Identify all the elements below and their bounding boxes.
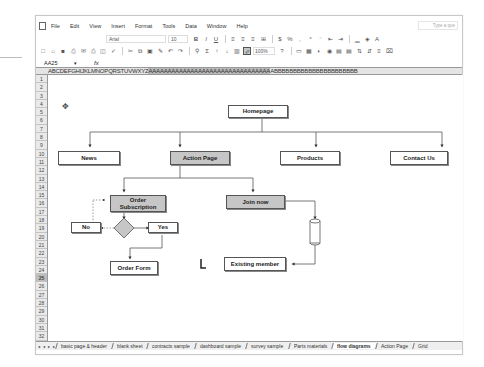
- font-size-select[interactable]: 10: [168, 35, 188, 43]
- row-header[interactable]: 19: [36, 224, 47, 232]
- node-action-page[interactable]: Action Page: [170, 151, 230, 165]
- bold-icon[interactable]: B: [192, 35, 200, 43]
- currency-icon[interactable]: $: [276, 35, 284, 43]
- cut-icon[interactable]: ✂: [126, 47, 134, 55]
- font-color-icon[interactable]: A: [373, 35, 381, 43]
- comma-style-icon[interactable]: ,: [296, 35, 304, 43]
- row-header[interactable]: 18: [36, 216, 47, 224]
- align-right-icon[interactable]: ≡: [249, 35, 257, 43]
- menu-help[interactable]: Help: [236, 23, 247, 29]
- sort-ascending-icon[interactable]: ↑: [213, 47, 221, 55]
- borders-icon[interactable]: ▁: [353, 35, 361, 43]
- decision-diamond[interactable]: [114, 218, 134, 238]
- redo-icon[interactable]: ↷: [176, 47, 184, 55]
- column-headers-ab[interactable]: ABBBBBBBBBBBBBBBBBBBBBB: [270, 68, 357, 74]
- worksheet-grid[interactable]: ✥ Homepage News Action Page Products Con…: [48, 75, 463, 341]
- tab-parts-materials[interactable]: Parts materials: [288, 343, 332, 349]
- menu-edit[interactable]: Edit: [70, 23, 79, 29]
- menu-tools[interactable]: Tools: [162, 23, 175, 29]
- node-existing-member[interactable]: Existing member: [224, 257, 286, 271]
- new-icon[interactable]: □: [39, 47, 47, 55]
- database-cylinder[interactable]: [310, 219, 320, 245]
- ask-question-input[interactable]: Type a que: [418, 21, 458, 30]
- row-header[interactable]: 20: [36, 233, 47, 241]
- row-header[interactable]: 31: [36, 324, 47, 332]
- row-header[interactable]: 11: [36, 158, 47, 166]
- insert-function-icon[interactable]: fx: [94, 60, 99, 66]
- row-header[interactable]: 22: [36, 249, 47, 257]
- row-header[interactable]: 15: [36, 191, 47, 199]
- italic-icon[interactable]: I: [202, 35, 210, 43]
- node-homepage[interactable]: Homepage: [228, 105, 288, 118]
- align-left-icon[interactable]: ≡: [229, 35, 237, 43]
- copy-icon[interactable]: ⧉: [136, 47, 144, 55]
- node-order-form[interactable]: Order Form: [110, 261, 158, 275]
- row-header[interactable]: 3: [36, 92, 47, 100]
- forms-icon[interactable]: ▤: [335, 47, 343, 55]
- menu-insert[interactable]: Insert: [111, 23, 125, 29]
- row-header[interactable]: 7: [36, 125, 47, 133]
- chart-wizard-icon[interactable]: ▥: [233, 47, 241, 55]
- sort-az-icon[interactable]: ⇅: [355, 47, 363, 55]
- row-header[interactable]: 28: [36, 299, 47, 307]
- row-header[interactable]: 14: [36, 183, 47, 191]
- node-products[interactable]: Products: [280, 151, 340, 165]
- name-box[interactable]: AA25: [36, 60, 74, 66]
- format-painter-icon[interactable]: ✎: [156, 47, 164, 55]
- name-box-dropdown-icon[interactable]: ▾: [74, 60, 94, 66]
- merge-center-icon[interactable]: ⊞: [259, 35, 267, 43]
- column-headers-aa[interactable]: AAAAAAAAAAAAAAAAAAAAAAAAAAAAAAAA: [148, 68, 270, 74]
- zoom-select[interactable]: 100%: [253, 47, 275, 55]
- menu-data[interactable]: Data: [185, 23, 197, 29]
- row-header[interactable]: 17: [36, 208, 47, 216]
- tab-flow-diagrams[interactable]: flow diagrams: [331, 343, 375, 349]
- percent-icon[interactable]: %: [286, 35, 294, 43]
- sort-za-icon[interactable]: ⇵: [365, 47, 373, 55]
- row-header[interactable]: 6: [36, 116, 47, 124]
- row-header-selected[interactable]: 25: [36, 274, 47, 282]
- row-header[interactable]: 4: [36, 100, 47, 108]
- shrink-icon[interactable]: ⌧: [385, 47, 393, 55]
- permission-icon[interactable]: ⎙: [69, 47, 77, 55]
- node-no[interactable]: No: [71, 222, 101, 233]
- autosum-icon[interactable]: Σ: [203, 47, 211, 55]
- print-icon[interactable]: ⎙: [89, 47, 97, 55]
- hyperlink-icon[interactable]: ⚲: [193, 47, 201, 55]
- node-join-now[interactable]: Join now: [226, 195, 285, 209]
- node-news[interactable]: News: [58, 151, 120, 165]
- tab-survey-sample[interactable]: survey sample: [246, 343, 289, 349]
- row-header[interactable]: 12: [36, 166, 47, 174]
- help-icon[interactable]: ?: [278, 47, 286, 55]
- row-header[interactable]: 8: [36, 133, 47, 141]
- menu-window[interactable]: Window: [207, 23, 227, 29]
- drawing-icon[interactable]: ✐: [243, 47, 251, 55]
- tab-grid[interactable]: Grid: [412, 343, 432, 349]
- layout-icon[interactable]: ◐: [315, 47, 323, 55]
- underline-icon[interactable]: U: [212, 35, 220, 43]
- row-header[interactable]: 23: [36, 258, 47, 266]
- row-header[interactable]: 5: [36, 108, 47, 116]
- sort-descending-icon[interactable]: ↓: [223, 47, 231, 55]
- tab-blank-sheet[interactable]: blank sheet: [111, 343, 147, 349]
- tab-action-page[interactable]: Action Page: [375, 343, 413, 349]
- node-contact-us[interactable]: Contact Us: [390, 151, 448, 165]
- row-header[interactable]: 16: [36, 199, 47, 207]
- row-header[interactable]: 10: [36, 150, 47, 158]
- print-preview-icon[interactable]: ◫: [99, 47, 107, 55]
- row-header[interactable]: 13: [36, 175, 47, 183]
- row-header[interactable]: 2: [36, 83, 47, 91]
- node-order-subscription[interactable]: Order Subscription: [110, 195, 166, 212]
- row-header[interactable]: 24: [36, 266, 47, 274]
- align-center-icon[interactable]: ≡: [239, 35, 247, 43]
- row-header[interactable]: 9: [36, 141, 47, 149]
- paste-icon[interactable]: ▣: [146, 47, 154, 55]
- row-header[interactable]: 29: [36, 307, 47, 315]
- picture-icon[interactable]: ▭: [295, 47, 303, 55]
- grid-icon[interactable]: ▤: [345, 47, 353, 55]
- increase-decimal-icon[interactable]: ⁺: [306, 35, 314, 43]
- lines-icon[interactable]: ≡: [375, 47, 383, 55]
- row-header[interactable]: 1: [36, 75, 47, 83]
- workbook-icon[interactable]: [39, 22, 46, 30]
- row-header[interactable]: 21: [36, 241, 47, 249]
- row-header[interactable]: 32: [36, 332, 47, 340]
